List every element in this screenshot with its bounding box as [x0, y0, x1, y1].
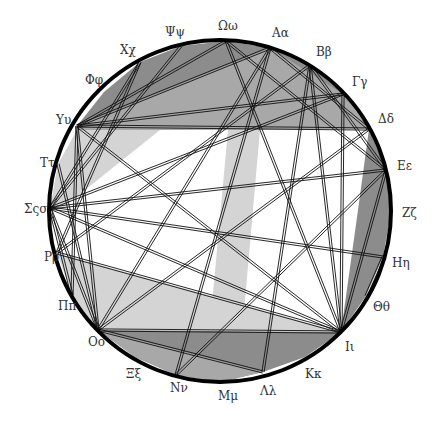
label-nu: Nν: [170, 381, 188, 395]
greek-alphabet-circle-diagram: ΩωAαBβΓγΔδEεZζHηΘθIιKκΛλMμNνΞξOoΠπPρΣςσT…: [0, 0, 436, 422]
label-chi: Xχ: [120, 43, 137, 57]
label-epsilon: Eε: [397, 159, 412, 173]
label-mu: Mμ: [218, 389, 238, 403]
label-beta: Bβ: [316, 45, 332, 59]
label-eta: Hη: [392, 256, 410, 270]
label-alpha: Aα: [271, 26, 289, 40]
label-iota: Iι: [345, 340, 355, 354]
label-kappa: Kκ: [305, 367, 322, 381]
label-gamma: Γγ: [352, 75, 368, 89]
chord-eta-sigma: [50, 209, 383, 258]
label-zeta: Zζ: [402, 206, 417, 220]
label-tau: Tτ: [40, 156, 55, 170]
label-psi: Ψψ: [165, 25, 185, 39]
label-theta: Θθ: [373, 300, 390, 314]
label-upsilon: Yυ: [55, 113, 71, 127]
label-xi: Ξξ: [126, 367, 141, 381]
label-sigma: Σςσ: [24, 202, 47, 216]
label-lambda: Λλ: [259, 384, 277, 398]
chord-eta-sigma: [50, 207, 383, 256]
label-phi: Φφ: [85, 73, 103, 87]
label-omicron: Oo: [88, 335, 105, 349]
label-rho: Pρ: [44, 250, 59, 264]
label-pi: Ππ: [58, 299, 76, 313]
label-delta: Δδ: [378, 112, 394, 126]
label-omega: Ωω: [218, 19, 238, 33]
